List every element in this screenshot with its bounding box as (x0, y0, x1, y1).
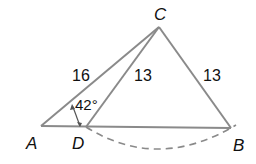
point-label-a: A (25, 134, 37, 153)
point-label-c: C (154, 5, 167, 24)
point-label-b: B (233, 136, 244, 155)
length-label-bc: 13 (203, 67, 221, 84)
triangle-diagram: C A D B 16 13 13 42° (0, 0, 256, 164)
angle-label: 42° (75, 96, 98, 113)
segment-ab (41, 126, 231, 128)
point-label-d: D (72, 134, 84, 153)
length-label-dc: 13 (134, 67, 152, 84)
length-label-ac: 16 (72, 67, 90, 84)
